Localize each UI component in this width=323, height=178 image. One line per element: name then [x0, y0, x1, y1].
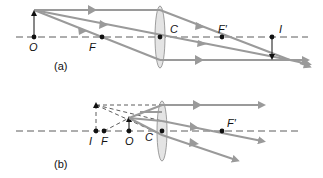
- caption-a: (a): [54, 60, 67, 72]
- rays-a: [34, 10, 308, 66]
- label-o-b: O: [125, 135, 134, 147]
- label-f-b: F: [101, 135, 109, 147]
- label-o-a: O: [29, 41, 38, 53]
- panel-b: I F O C F′ (b): [16, 100, 300, 170]
- label-f-a: F: [89, 41, 97, 53]
- ray-arrowheads-b: [189, 100, 202, 147]
- lens-diagram: O F C F′ I (a): [0, 0, 323, 178]
- caption-b: (b): [54, 158, 67, 170]
- label-fprime-b: F′: [227, 117, 237, 129]
- label-c-b: C: [145, 131, 153, 143]
- label-c-a: C: [170, 23, 178, 35]
- panel-a: O F C F′ I (a): [16, 5, 308, 72]
- label-i-b: I: [89, 135, 92, 147]
- label-i-a: I: [279, 23, 282, 35]
- label-fprime-a: F′: [218, 23, 228, 35]
